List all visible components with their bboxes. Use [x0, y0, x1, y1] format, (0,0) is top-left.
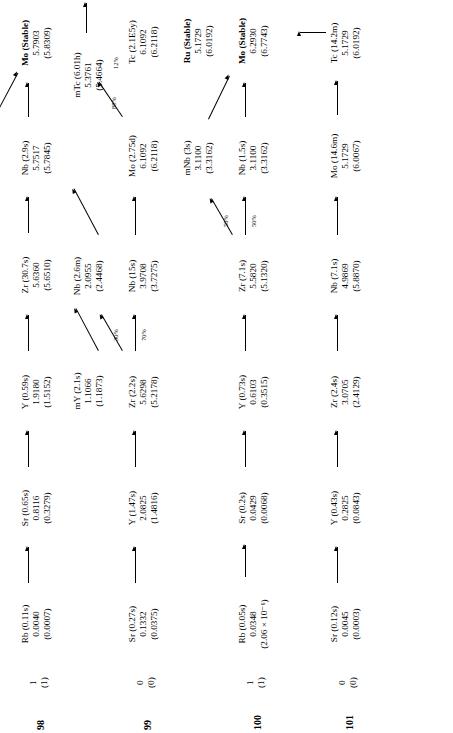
- node-uncert: (6.7743): [259, 1, 270, 81]
- node-sr98: Sr (0.65s) 0.8116 (0.3279): [20, 473, 54, 543]
- node-value: 3.9708: [138, 241, 149, 311]
- node-uncert: (5.6510): [42, 239, 53, 311]
- node-name: Mo (2.75d): [127, 119, 138, 193]
- node-uncert: (3.3162): [259, 123, 270, 193]
- node-uncert: (2.4129): [351, 357, 362, 427]
- node-uncert: (5.2178): [149, 357, 160, 427]
- node-zr98: Zr (30.7s) 5.6360 (5.6510): [20, 239, 54, 311]
- node-mo98: Mo (Stable) 5.7903 (5.8309): [20, 5, 54, 81]
- arrow-y98-zr98: [28, 315, 29, 351]
- node-value: 5.7517: [31, 123, 42, 193]
- node-ru99: Ru (Stable) 6.1092 (6.2118): [0, 1, 2, 81]
- node-value: 0.0045: [340, 589, 351, 659]
- yield-value: 0: [337, 677, 348, 688]
- node-zr100: Zr (7.1s) 5.5820 (5.1320): [237, 241, 271, 311]
- node-name: Sr (0.2s): [237, 473, 248, 543]
- node-y101: Y (0.43s) 0.2825 (0.0843): [329, 473, 363, 543]
- node-name: Mo (Stable): [20, 5, 31, 81]
- node-value: 5.6298: [138, 357, 149, 427]
- node-value: 2.0955: [83, 239, 94, 313]
- node-uncert: (6.2118): [149, 3, 160, 81]
- branch-70pct: 70%: [140, 329, 147, 341]
- arrow-nb100-mo100: [245, 83, 246, 117]
- node-name: Tc (2.1E5y): [127, 3, 138, 81]
- node-mnb98: mNb (51m) 0.0386 (0.0445): [0, 117, 2, 193]
- node-uncert: (0.0007): [42, 589, 53, 659]
- arrow-mnb99-mo99: [74, 189, 99, 235]
- arrow-rb98-sr98: [28, 547, 29, 583]
- node-name: Y (0.59s): [20, 357, 31, 427]
- node-value: 6.1092: [138, 119, 149, 193]
- node-value: 6.1092: [138, 3, 149, 81]
- node-mo101: Mo (14.6m) 5.1729 (6.0067): [329, 119, 363, 193]
- node-name: mTc (6.01h): [72, 35, 83, 115]
- arrow-y100-zr100: [245, 315, 246, 351]
- arrow-zr98-nb98: [28, 197, 29, 233]
- node-value: 5.1729: [340, 119, 351, 193]
- node-uncert: (5.7845): [42, 123, 53, 193]
- node-y98: Y (0.59s) 1.9180 (1.5152): [20, 357, 54, 427]
- node-name: Zr (7.1s): [237, 241, 248, 311]
- arrow-y99-zr99: [135, 431, 136, 467]
- arrow-nb98-mo98: [28, 83, 29, 117]
- branch-88pct: 88%: [110, 97, 117, 109]
- node-value: 0.2825: [340, 473, 351, 543]
- node-ru101: Ru (Stable) 5.1729 (6.0192): [182, 1, 216, 81]
- yield-uncertainty: (0): [348, 677, 359, 688]
- node-uncert: (1.5152): [42, 357, 53, 427]
- node-name: Mo (Stable): [237, 1, 248, 81]
- branch-12pct: 12%: [112, 57, 119, 69]
- node-name: Rb (0.05s): [237, 581, 248, 667]
- node-name: Zr (30.7s): [20, 239, 31, 311]
- node-value: 3.1100: [193, 121, 204, 195]
- node-uncert: (0.0003): [351, 589, 362, 659]
- arrow-sr101-y101: [337, 547, 338, 583]
- node-mo99: Mo (2.75d) 6.1092 (6.2118): [127, 119, 161, 193]
- node-name: Nb (15s): [127, 241, 138, 311]
- node-uncert: (1.4816): [149, 473, 160, 543]
- node-y100: Y (0.73s) 0.6103 (0.3515): [237, 357, 271, 427]
- node-value: 3.0705: [340, 357, 351, 427]
- node-nb98: Nb (2.9s) 5.7517 (5.7845): [20, 123, 54, 193]
- node-rb98: Rb (0.11s) 0.0040 (0.0007): [20, 589, 54, 659]
- arrow-nb101-mo101: [337, 197, 338, 235]
- yield-uncertainty: (1): [39, 677, 50, 688]
- node-uncert: (0.3279): [42, 473, 53, 543]
- node-value: 5.1729: [340, 5, 351, 81]
- node-mnb99: Nb (2.6m) 2.0955 (2.4468): [72, 239, 106, 313]
- arrow-mo101-tc101: [337, 81, 338, 115]
- yield-value: 0: [135, 677, 146, 688]
- node-uncert: (0.0445): [0, 117, 2, 193]
- arrow-y101-zr101: [337, 431, 338, 467]
- node-value: 0.0040: [31, 589, 42, 659]
- chain-label-101: 101: [344, 715, 355, 730]
- node-value: 3.1100: [248, 123, 259, 193]
- node-name: Tc (14.2m): [329, 5, 340, 81]
- chain-label-100: 100: [252, 715, 263, 730]
- node-nb100: Nb (1.5s) 3.1100 (3.3162): [237, 123, 271, 193]
- arrow-sr99-y99: [135, 547, 136, 583]
- branch-50pct-a: 50%: [222, 215, 229, 227]
- branch-50pct-b: 50%: [250, 215, 257, 227]
- node-mtc99: mTc (6.01h) 5.3761 (5.4664): [72, 35, 106, 115]
- chain-label-99: 99: [142, 720, 153, 730]
- node-name: mNb (3s): [182, 121, 193, 195]
- node-name: mY (2.1s): [72, 355, 83, 427]
- node-name: Sr (0.27s): [127, 589, 138, 659]
- chain-yield-98: 1 (1): [28, 677, 50, 688]
- node-sr101: Sr (0.12s) 0.0045 (0.0003): [329, 589, 363, 659]
- node-tc101: Tc (14.2m) 5.1729 (6.0192): [329, 5, 363, 81]
- arrow-zr100-nb100: [245, 197, 246, 235]
- node-uncert: (6.0192): [351, 5, 362, 81]
- node-value: 0.6103: [248, 357, 259, 427]
- node-value: 4.9869: [340, 241, 351, 311]
- node-value: 5.3761: [83, 35, 94, 115]
- node-nb101: Nb (7.1s) 4.9869 (5.8870): [329, 241, 363, 311]
- node-value: 5.1729: [193, 1, 204, 81]
- node-name: Y (1.47s): [127, 473, 138, 543]
- node-rb100: Rb (0.05s) 0.0348 (2.06 × 10⁻⁶): [237, 581, 271, 667]
- node-name: Ru (Stable): [182, 1, 193, 81]
- node-uncert: (5.8870): [351, 241, 362, 311]
- node-uncert: (5.4664): [94, 35, 105, 115]
- node-uncert: (3.7275): [149, 241, 160, 311]
